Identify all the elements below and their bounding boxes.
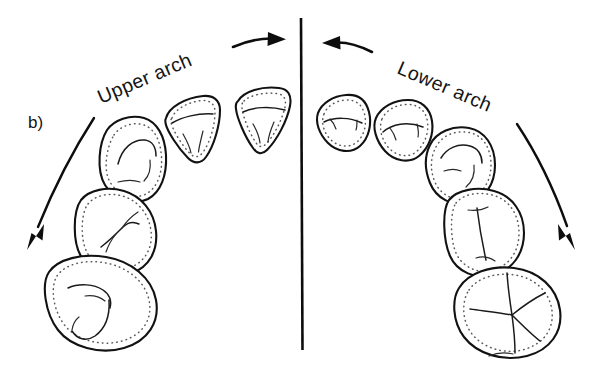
right-arc-arrow — [517, 124, 575, 250]
upper-central-incisor — [236, 88, 291, 154]
lower-lateral-incisor — [374, 100, 432, 161]
lower-central-incisor — [317, 95, 370, 151]
lower-molar — [454, 267, 560, 358]
dental-midline — [301, 18, 303, 350]
panel-label: b) — [28, 113, 43, 132]
left-arch-label-text: Upper arch — [94, 48, 195, 108]
left-top-arrow — [233, 32, 286, 47]
right-top-arrow — [322, 36, 372, 52]
dental-arch-figure: Upper arch Lower arch b) — [0, 0, 591, 370]
left-arch-label: Upper arch — [94, 48, 195, 108]
panel-label-text: b) — [28, 113, 43, 132]
dental-arch-drawing: Upper arch Lower arch b) — [0, 0, 591, 370]
upper-lateral-incisor — [165, 96, 220, 163]
lower-premolar — [444, 189, 524, 277]
